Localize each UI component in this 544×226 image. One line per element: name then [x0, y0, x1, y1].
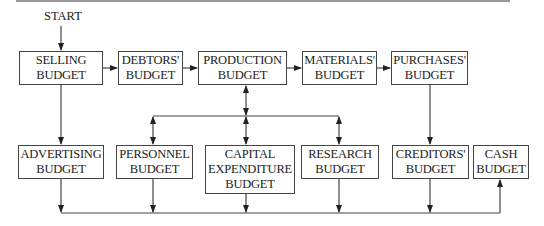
box-label: BUDGET: [405, 68, 455, 83]
box-label: CASH: [485, 147, 518, 162]
materials-budget-box: MATERIALS' BUDGET: [302, 51, 377, 85]
capital-expenditure-budget-box: CAPITAL EXPENDITURE BUDGET: [205, 145, 295, 194]
cash-budget-box: CASH BUDGET: [473, 145, 529, 179]
box-label: PERSONNEL: [119, 147, 189, 162]
purchases-budget-box: PURCHASES' BUDGET: [391, 51, 468, 85]
box-label: BUDGET: [225, 177, 275, 192]
box-label: ADVERTISING: [20, 147, 101, 162]
box-label: BUDGET: [36, 162, 86, 177]
production-budget-box: PRODUCTION BUDGET: [198, 51, 287, 85]
box-label: BUDGET: [315, 162, 365, 177]
box-label: PURCHASES': [393, 53, 466, 68]
box-label: SELLING: [36, 53, 87, 68]
debtors-budget-box: DEBTORS' BUDGET: [118, 51, 183, 85]
box-label: PRODUCTION: [203, 53, 282, 68]
box-label: BUDGET: [476, 162, 526, 177]
box-label: BUDGET: [406, 162, 456, 177]
box-label: MATERIALS': [304, 53, 374, 68]
advertising-budget-box: ADVERTISING BUDGET: [18, 145, 104, 179]
box-label: BUDGET: [130, 162, 180, 177]
box-label: BUDGET: [218, 68, 268, 83]
box-label: DEBTORS': [122, 53, 179, 68]
selling-budget-box: SELLING BUDGET: [19, 51, 103, 85]
personnel-budget-box: PERSONNEL BUDGET: [116, 145, 193, 179]
box-label: BUDGET: [126, 68, 176, 83]
start-label: START: [44, 9, 82, 24]
box-label: BUDGET: [315, 68, 365, 83]
box-label: BUDGET: [36, 68, 86, 83]
research-budget-box: RESEARCH BUDGET: [301, 145, 379, 179]
box-label: EXPENDITURE: [208, 162, 292, 177]
box-label: RESEARCH: [308, 147, 372, 162]
creditors-budget-box: CREDITORS' BUDGET: [392, 145, 469, 179]
box-label: CAPITAL: [225, 147, 275, 162]
box-label: CREDITORS': [396, 147, 465, 162]
